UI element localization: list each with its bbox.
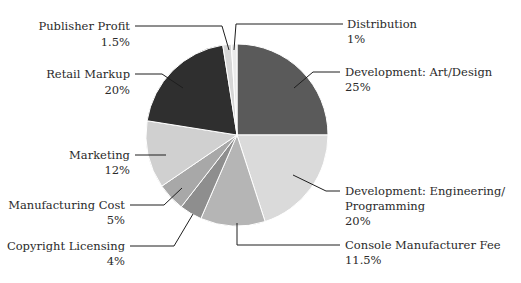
label-publisher-profit: Publisher Profit 1.5% (38, 19, 130, 49)
label-name: Retail Markup (46, 67, 130, 81)
label-value: 12% (104, 163, 130, 177)
pie-chart: Publisher Profit 1.5% Retail Markup 20% … (0, 0, 521, 283)
label-name: Manufacturing Cost (8, 198, 125, 212)
label-value: 1.5% (101, 35, 130, 49)
label-value: 25% (345, 80, 371, 94)
label-console-fee: Console Manufacturer Fee 11.5% (345, 238, 501, 267)
pie-slice-retail-markup (147, 45, 237, 135)
label-name: Copyright Licensing (7, 239, 126, 253)
label-name-line2: Programming (345, 199, 426, 213)
label-name: Development: Engineering/ (345, 184, 505, 198)
label-name: Console Manufacturer Fee (345, 238, 501, 252)
label-value: 11.5% (345, 253, 382, 267)
label-value: 4% (107, 254, 125, 268)
label-value: 20% (345, 214, 371, 228)
label-value: 1% (347, 32, 365, 46)
label-name: Publisher Profit (38, 19, 130, 33)
label-name: Distribution (347, 17, 418, 31)
label-copyright-licensing: Copyright Licensing 4% (7, 239, 126, 268)
label-marketing: Marketing 12% (69, 148, 131, 177)
label-distribution: Distribution 1% (347, 17, 418, 46)
label-value: 5% (107, 213, 125, 227)
label-name: Marketing (69, 148, 131, 162)
label-value: 20% (104, 83, 130, 97)
label-name: Development: Art/Design (345, 65, 493, 79)
label-dev-art-design: Development: Art/Design 25% (345, 65, 493, 94)
pie-slices (146, 44, 328, 226)
label-dev-engineering: Development: Engineering/ Programming 20… (345, 184, 505, 228)
label-retail-markup: Retail Markup 20% (46, 67, 130, 97)
pie-slice-development-art-design (237, 44, 328, 135)
label-manufacturing-cost: Manufacturing Cost 5% (8, 198, 125, 227)
